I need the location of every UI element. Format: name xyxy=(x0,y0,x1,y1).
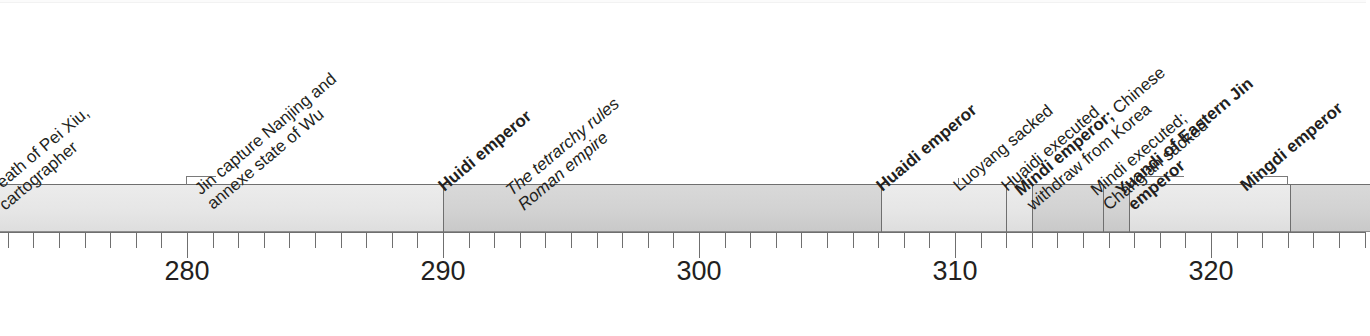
tick-minor xyxy=(417,233,418,248)
tick-minor xyxy=(1365,233,1366,248)
tick-minor xyxy=(1109,233,1110,248)
band-segment-huaidi-reign xyxy=(881,184,1006,232)
tick-minor xyxy=(801,233,802,248)
tick-minor xyxy=(1288,233,1289,248)
axis-line xyxy=(0,232,1366,233)
tick-minor xyxy=(725,233,726,248)
top-rule xyxy=(0,0,1366,3)
tick-minor xyxy=(673,233,674,248)
tick-minor xyxy=(1006,233,1007,248)
tick-minor xyxy=(1057,233,1058,248)
tick-minor xyxy=(1237,233,1238,248)
tick-minor xyxy=(238,233,239,248)
tick-major xyxy=(955,233,956,258)
tick-label-310: 310 xyxy=(932,256,977,287)
tick-major xyxy=(187,233,188,258)
tick-minor xyxy=(776,233,777,248)
tick-minor xyxy=(520,233,521,248)
tick-minor xyxy=(1262,233,1263,248)
tick-minor xyxy=(981,233,982,248)
tick-minor xyxy=(597,233,598,248)
tick-minor xyxy=(136,233,137,248)
tick-minor xyxy=(648,233,649,248)
tick-minor xyxy=(622,233,623,248)
tick-minor xyxy=(264,233,265,248)
tick-minor xyxy=(33,233,34,248)
tick-label-290: 290 xyxy=(420,256,465,287)
tick-major xyxy=(1211,233,1212,258)
tick-minor xyxy=(1134,233,1135,248)
tick-minor xyxy=(827,233,828,248)
tick-minor xyxy=(469,233,470,248)
tick-minor xyxy=(366,233,367,248)
tick-minor xyxy=(1083,233,1084,248)
tick-minor xyxy=(392,233,393,248)
tick-minor xyxy=(1313,233,1314,248)
tick-minor xyxy=(929,233,930,248)
tick-minor xyxy=(161,233,162,248)
tick-minor xyxy=(878,233,879,248)
tick-minor xyxy=(1339,233,1340,248)
tick-major xyxy=(443,233,444,258)
tick-minor xyxy=(85,233,86,248)
tick-minor xyxy=(904,233,905,248)
tick-label-300: 300 xyxy=(676,256,721,287)
tick-label-320: 320 xyxy=(1188,256,1233,287)
tick-minor xyxy=(110,233,111,248)
tick-minor xyxy=(545,233,546,248)
tick-minor xyxy=(750,233,751,248)
tick-minor xyxy=(1160,233,1161,248)
tick-minor xyxy=(289,233,290,248)
band-divider xyxy=(1290,184,1291,232)
tick-minor xyxy=(571,233,572,248)
tick-minor xyxy=(213,233,214,248)
tick-minor xyxy=(853,233,854,248)
tick-minor xyxy=(1185,233,1186,248)
tick-minor xyxy=(8,233,9,248)
tick-minor xyxy=(315,233,316,248)
tick-minor xyxy=(1032,233,1033,248)
tick-major xyxy=(699,233,700,258)
tick-minor xyxy=(341,233,342,248)
tick-label-280: 280 xyxy=(164,256,209,287)
tick-minor xyxy=(494,233,495,248)
band-segment-mingdi-reign xyxy=(1290,184,1369,232)
tick-minor xyxy=(59,233,60,248)
